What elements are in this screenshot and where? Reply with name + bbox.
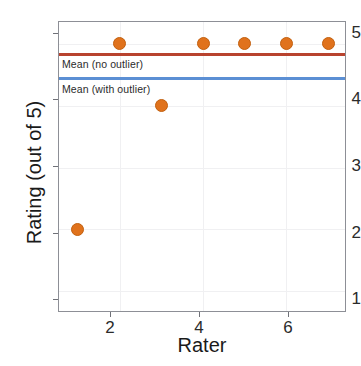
scatter-chart-figure: Rating (out of 5) Rater 5 4 3 2 1 2 4 6 … xyxy=(0,0,361,366)
mean-label-no-outlier: Mean (no outlier) xyxy=(62,58,143,70)
mean-label-with-outlier: Mean (with outlier) xyxy=(62,83,150,95)
data-point xyxy=(280,37,293,50)
gridline-horizontal xyxy=(59,106,345,107)
x-tick-label: 4 xyxy=(194,318,203,338)
x-tick-label: 6 xyxy=(283,318,292,338)
data-point xyxy=(238,37,251,50)
gridline-vertical xyxy=(286,22,287,311)
y-axis-title: Rating (out of 5) xyxy=(23,43,46,303)
mean-line-with-outlier xyxy=(59,77,345,80)
data-point xyxy=(113,37,126,50)
data-point xyxy=(155,99,168,112)
data-point xyxy=(71,223,84,236)
gridline-vertical xyxy=(203,22,204,311)
mean-line-no-outlier xyxy=(59,53,345,56)
plot-panel: Mean (no outlier)Mean (with outlier) xyxy=(58,21,346,312)
data-point xyxy=(197,37,210,50)
gridline-horizontal xyxy=(59,229,345,230)
x-tick-label: 2 xyxy=(105,318,114,338)
data-point xyxy=(322,37,335,50)
x-tick-mark xyxy=(288,312,289,317)
x-tick-mark xyxy=(199,312,200,317)
gridline-horizontal xyxy=(59,291,345,292)
x-tick-mark xyxy=(110,312,111,317)
gridline-horizontal xyxy=(59,168,345,169)
